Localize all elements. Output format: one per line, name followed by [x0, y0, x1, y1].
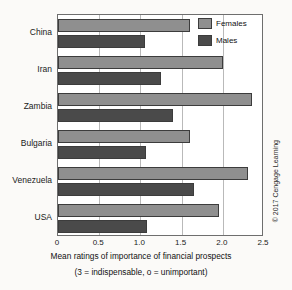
category-label-china: China [0, 27, 52, 37]
bar-females-usa [58, 204, 219, 217]
bar-males-venezuela [58, 183, 194, 196]
copyright-credit: © 2017 Cengage Learning [272, 140, 279, 222]
bar-males-china [58, 35, 145, 48]
bar-group [58, 126, 262, 163]
x-tick-1.5: 1.5 [175, 238, 186, 247]
bar-males-usa [58, 220, 147, 233]
x-tick-2.5: 2.5 [257, 238, 268, 247]
bar-females-iran [58, 56, 223, 69]
category-label-zambia: Zambia [0, 101, 52, 111]
bar-chart-figure: ChinaIranZambiaBulgariaVenezuelaUSA 00.5… [0, 0, 292, 290]
bar-males-bulgaria [58, 146, 146, 159]
x-tick-0: 0 [55, 238, 59, 247]
bar-females-zambia [58, 93, 252, 106]
bar-males-zambia [58, 109, 173, 122]
x-tick-2.0: 2.0 [216, 238, 227, 247]
x-tick-0.5: 0.5 [93, 238, 104, 247]
bar-group [58, 200, 262, 237]
bar-females-china [58, 19, 190, 32]
category-label-iran: Iran [0, 64, 52, 74]
x-axis-title: Mean ratings of importance of financial … [10, 251, 272, 261]
legend-label-females: Females [216, 19, 247, 28]
category-label-usa: USA [0, 212, 52, 222]
legend-item-males: Males [198, 33, 260, 47]
x-tick-1.0: 1.0 [134, 238, 145, 247]
bar-group [58, 52, 262, 89]
bar-group [58, 163, 262, 200]
bar-males-iran [58, 72, 161, 85]
x-axis-subtitle: (3 = indispensable, o = unimportant) [10, 267, 272, 277]
legend: Females Males [198, 16, 260, 50]
category-label-bulgaria: Bulgaria [0, 138, 52, 148]
category-axis-labels: ChinaIranZambiaBulgariaVenezuelaUSA [0, 14, 52, 236]
legend-swatch-females-icon [198, 18, 212, 29]
bar-females-venezuela [58, 167, 248, 180]
legend-item-females: Females [198, 16, 260, 30]
x-axis-tick-labels: 00.51.01.52.02.5 [57, 238, 263, 250]
legend-label-males: Males [216, 36, 237, 45]
category-label-venezuela: Venezuela [0, 175, 52, 185]
legend-swatch-males-icon [198, 35, 212, 46]
bar-group [58, 89, 262, 126]
bar-females-bulgaria [58, 130, 190, 143]
